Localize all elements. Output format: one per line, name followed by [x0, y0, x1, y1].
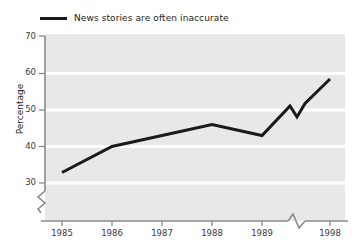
- plot-area: [0, 0, 354, 251]
- y-axis: [38, 36, 45, 213]
- y-axis-break-icon: [38, 191, 45, 213]
- line-chart: News stories are often inaccurate Percen…: [0, 0, 354, 251]
